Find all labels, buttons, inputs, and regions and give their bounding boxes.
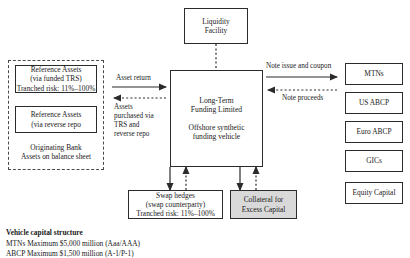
liquidity-facility-box[interactable]: Liquidity Facility <box>184 8 248 44</box>
reference-assets-trs-line1: Reference Assets <box>31 65 82 74</box>
funding-vehicle-name-line2: Funding Limited <box>191 105 242 114</box>
instrument-label-mtns: MTNs <box>364 69 383 78</box>
assets-purchased-line3: TRS and <box>114 121 139 130</box>
reference-assets-trs-line3: Tranched risk: 11%–100% <box>17 84 96 93</box>
instrument-label-euro-abcp: Euro ABCP <box>356 127 391 136</box>
originating-bank-line2: Assets on balance sheet <box>8 152 104 161</box>
instrument-label-us-abcp: US ABCP <box>359 98 389 107</box>
funding-vehicle-desc-line2: funding vehicle <box>193 132 240 141</box>
reference-assets-repo-line1: Reference Assets <box>31 110 82 119</box>
note-issue-label: Note issue and coupon <box>266 62 331 71</box>
swap-hedges-line3: Tranched risk: 11%–100% <box>136 209 215 218</box>
funding-vehicle-name-line1: Long-Term <box>199 96 233 105</box>
funding-vehicle-box[interactable]: Long-Term Funding Limited Offshore synth… <box>170 70 263 167</box>
collateral-line1: Collateral for <box>244 195 284 204</box>
originating-bank-line1: Originating Bank <box>8 143 104 152</box>
instrument-label-equity-capital: Equity Capital <box>353 188 396 197</box>
funding-vehicle-desc-line1: Offshore synthetic <box>188 123 244 132</box>
instrument-box-us-abcp[interactable]: US ABCP <box>345 92 403 114</box>
asset-return-label: Asset return <box>116 74 151 83</box>
liquidity-facility-line2: Facility <box>205 26 228 35</box>
assets-purchased-line4: reverse repo <box>114 130 149 139</box>
swap-hedges-box[interactable]: Swap hedges (swap counterparty) Tranched… <box>128 190 223 219</box>
reference-assets-repo-box[interactable]: Reference Assets (via reverse repo <box>15 106 97 133</box>
assets-purchased-line2: purchased via <box>114 112 154 121</box>
instrument-label-gics: GICs <box>366 156 382 165</box>
originating-bank-caption: Originating Bank Assets on balance sheet <box>8 143 104 161</box>
collateral-box[interactable]: Collateral for Excess Capital <box>230 190 297 219</box>
collateral-line2: Excess Capital <box>242 205 286 214</box>
swap-hedges-line2: (swap counterparty) <box>146 200 205 209</box>
instrument-box-mtns[interactable]: MTNs <box>345 63 403 85</box>
instrument-box-equity-capital[interactable]: Equity Capital <box>345 182 403 204</box>
caption-title: Vehicle capital structure <box>6 228 83 237</box>
caption-line1: MTNs Maximum $5,000 million (Aaa/AAA) <box>6 239 140 248</box>
reference-assets-repo-line2: (via reverse repo <box>31 120 81 129</box>
swap-hedges-line1: Swap hedges <box>156 191 195 200</box>
assets-purchased-line1: Assets <box>114 103 133 112</box>
instrument-box-gics[interactable]: GICs <box>345 150 403 172</box>
note-proceeds-label: Note proceeds <box>282 94 323 103</box>
liquidity-facility-line1: Liquidity <box>202 17 230 26</box>
reference-assets-trs-line2: (via funded TRS) <box>30 74 82 83</box>
caption-line2: ABCP Maximum $1,500 million (A-1/P-1) <box>6 249 134 258</box>
reference-assets-trs-box[interactable]: Reference Assets (via funded TRS) Tranch… <box>15 65 97 93</box>
instrument-box-euro-abcp[interactable]: Euro ABCP <box>345 121 403 143</box>
